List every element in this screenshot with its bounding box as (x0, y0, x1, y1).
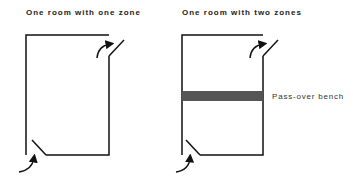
exit-arrow-icon (97, 44, 110, 58)
entry-arrow-icon (176, 158, 190, 172)
pass-over-bench (182, 91, 263, 101)
wall-right-bottom (46, 56, 109, 155)
entry-arrow-icon (19, 158, 34, 172)
room-one-zone (19, 35, 124, 172)
door-exit-icon (109, 40, 124, 56)
room-two-zones (176, 35, 278, 172)
door-entrance-icon (32, 140, 46, 155)
exit-arrow-icon (250, 44, 263, 58)
bench-label: Pass-over bench (272, 92, 344, 101)
door-entrance-icon (186, 140, 200, 155)
wall-right-bottom (200, 56, 263, 155)
wall-top-left (26, 35, 109, 155)
door-exit-icon (263, 40, 278, 56)
